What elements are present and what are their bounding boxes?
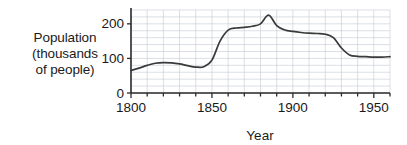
x-tick-label: 1800 <box>116 100 146 115</box>
x-tick-label: 1950 <box>359 100 389 115</box>
x-tick-label: 1900 <box>278 100 308 115</box>
x-tick-label: 1850 <box>197 100 227 115</box>
tick-marks <box>127 24 390 98</box>
y-tick-labels: 0100200 <box>101 16 124 100</box>
y-tick-label: 100 <box>101 51 124 66</box>
y-tick-label: 200 <box>101 16 124 31</box>
gridlines <box>131 10 390 93</box>
chart-screenshot: Population (thousands of people) 0100200… <box>0 0 407 145</box>
x-tick-labels: 1800185019001950 <box>116 100 389 115</box>
y-tick-label: 0 <box>116 86 124 101</box>
population-line-chart: 0100200 1800185019001950 Year <box>0 0 407 145</box>
x-axis-title: Year <box>246 128 274 143</box>
